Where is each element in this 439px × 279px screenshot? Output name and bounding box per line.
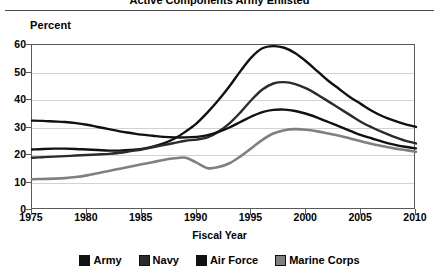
y-tick-label: 50 xyxy=(0,67,26,77)
legend-label: Marine Corps xyxy=(289,255,359,266)
chart-title: Active Components Army Enlisted xyxy=(0,0,439,6)
x-tick-mark xyxy=(196,209,197,215)
x-tick-mark xyxy=(415,209,416,215)
legend-label: Army xyxy=(93,255,121,266)
legend-item-air-force[interactable]: Air Force xyxy=(196,255,258,266)
series-lines xyxy=(32,45,416,210)
y-tick-label: 20 xyxy=(0,149,26,159)
legend-swatch-air-force xyxy=(196,255,207,266)
x-tick-mark xyxy=(31,209,32,215)
legend-label: Air Force xyxy=(210,255,258,266)
header-divider xyxy=(5,10,434,11)
x-tick-mark xyxy=(141,209,142,215)
y-tick-label: 30 xyxy=(0,122,26,132)
x-tick-mark xyxy=(86,209,87,215)
chart-legend: ArmyNavyAir ForceMarine Corps xyxy=(0,255,439,266)
series-line-air-force xyxy=(32,110,416,149)
x-tick-mark xyxy=(360,209,361,215)
y-tick-label: 40 xyxy=(0,94,26,104)
legend-swatch-army xyxy=(79,255,90,266)
x-tick-mark xyxy=(250,209,251,215)
y-tick-label: 60 xyxy=(0,39,26,49)
legend-swatch-marine-corps xyxy=(275,255,286,266)
legend-item-army[interactable]: Army xyxy=(79,255,121,266)
legend-item-marine-corps[interactable]: Marine Corps xyxy=(275,255,359,266)
y-tick-label: 10 xyxy=(0,177,26,187)
chart-page: Active Components Army Enlisted Percent … xyxy=(0,0,439,279)
x-tick-mark xyxy=(305,209,306,215)
legend-swatch-navy xyxy=(139,255,150,266)
plot-area xyxy=(31,44,415,209)
y-axis-label: Percent xyxy=(30,19,71,31)
legend-item-navy[interactable]: Navy xyxy=(139,255,179,266)
legend-label: Navy xyxy=(153,255,179,266)
x-axis-label: Fiscal Year xyxy=(0,229,439,241)
